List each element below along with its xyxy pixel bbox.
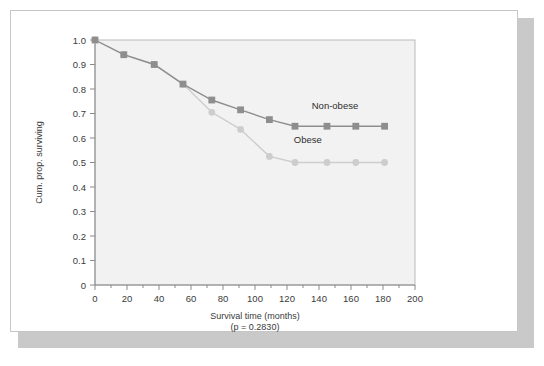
- y-tick-label: 0.1: [73, 255, 86, 266]
- x-axis-title: Survival time (months): [210, 311, 300, 321]
- data-point-marker: [324, 159, 331, 166]
- data-point-marker: [208, 109, 215, 116]
- series-annotation-non-obese: Non-obese: [312, 100, 358, 111]
- data-point-marker: [151, 61, 158, 68]
- y-tick-label: 0.7: [73, 108, 86, 119]
- data-point-marker: [120, 51, 127, 58]
- x-tick-label: 0: [92, 293, 97, 304]
- data-point-marker: [381, 123, 388, 130]
- series-annotation-obese: Obese: [294, 134, 322, 145]
- y-tick-label: 0.3: [73, 206, 86, 217]
- y-tick-label: 0.8: [73, 84, 86, 95]
- data-point-marker: [237, 126, 244, 133]
- y-tick-label: 0.5: [73, 157, 86, 168]
- data-point-marker: [352, 123, 359, 130]
- survival-chart: 00.10.20.30.40.50.60.70.80.91.0Cum. prop…: [0, 0, 544, 366]
- y-axis: 00.10.20.30.40.50.60.70.80.91.0: [73, 35, 95, 291]
- data-point-marker: [180, 81, 187, 88]
- y-tick-label: 0.9: [73, 59, 86, 70]
- data-point-marker: [266, 153, 273, 160]
- data-point-marker: [381, 159, 388, 166]
- x-tick-label: 120: [279, 293, 295, 304]
- y-tick-label: 0.6: [73, 133, 86, 144]
- x-tick-label: 160: [343, 293, 359, 304]
- data-point-marker: [92, 37, 99, 44]
- data-point-marker: [237, 106, 244, 113]
- x-tick-label: 140: [311, 293, 327, 304]
- data-point-marker: [292, 123, 299, 130]
- data-point-marker: [266, 116, 273, 123]
- y-axis-title: Cum. prop. surviving: [34, 121, 44, 204]
- data-point-marker: [208, 97, 215, 104]
- x-axis: 020406080100120140160180200: [92, 285, 423, 304]
- x-tick-label: 100: [247, 293, 263, 304]
- x-tick-label: 60: [186, 293, 197, 304]
- y-tick-label: 1.0: [73, 35, 86, 46]
- screenshot-root: 00.10.20.30.40.50.60.70.80.91.0Cum. prop…: [0, 0, 544, 366]
- y-tick-label: 0.2: [73, 231, 86, 242]
- x-tick-label: 40: [154, 293, 165, 304]
- y-tick-label: 0.4: [73, 182, 86, 193]
- x-axis-subtitle: (p = 0.2830): [231, 322, 280, 332]
- y-tick-label: 0: [81, 280, 86, 291]
- x-tick-label: 180: [375, 293, 391, 304]
- data-point-marker: [324, 123, 331, 130]
- x-tick-label: 200: [407, 293, 423, 304]
- x-tick-label: 20: [122, 293, 133, 304]
- data-point-marker: [292, 159, 299, 166]
- data-point-marker: [352, 159, 359, 166]
- x-tick-label: 80: [218, 293, 229, 304]
